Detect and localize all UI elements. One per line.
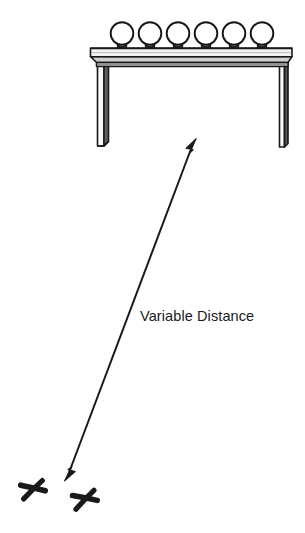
right-leg bbox=[280, 61, 289, 148]
ball-6 bbox=[251, 22, 274, 47]
table-top-surface bbox=[91, 48, 293, 57]
left-leg bbox=[98, 58, 109, 147]
ball-4 bbox=[195, 22, 218, 47]
ball-3 bbox=[167, 22, 190, 47]
floor-x-marks bbox=[20, 480, 98, 509]
table-top-front-edge bbox=[91, 57, 293, 67]
balls-on-table bbox=[111, 22, 274, 47]
x-mark-1 bbox=[20, 480, 45, 499]
variable-distance-label: Variable Distance bbox=[140, 309, 254, 324]
table bbox=[91, 48, 293, 147]
variable-distance-diagram bbox=[0, 0, 305, 533]
ball-5 bbox=[223, 22, 246, 47]
ball-2 bbox=[139, 22, 162, 47]
ball-1 bbox=[111, 22, 134, 47]
x-mark-2 bbox=[72, 490, 98, 509]
